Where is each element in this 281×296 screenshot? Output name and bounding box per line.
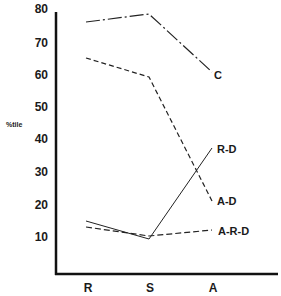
label-a-d: A-D xyxy=(217,195,237,207)
y-tick-80: 80 xyxy=(35,2,49,16)
y-tick-50: 50 xyxy=(35,100,49,114)
y-tick-30: 30 xyxy=(35,165,49,179)
series-a-d-line xyxy=(86,58,212,201)
x-tick-r: R xyxy=(84,281,93,295)
y-tick-20: 20 xyxy=(35,198,49,212)
y-tick-10: 10 xyxy=(35,230,49,244)
y-tick-60: 60 xyxy=(35,68,49,82)
series-r-d-line xyxy=(86,148,212,239)
line-chart: 80 70 60 50 40 30 20 10 %tile R S A C R-… xyxy=(0,0,281,296)
y-tick-70: 70 xyxy=(35,36,49,50)
y-axis-label: %tile xyxy=(6,121,22,128)
y-tick-40: 40 xyxy=(35,132,49,146)
label-r-d: R-D xyxy=(217,143,237,155)
x-tick-a: A xyxy=(209,281,218,295)
series-a-r-d-line xyxy=(86,227,212,236)
label-a-r-d: A-R-D xyxy=(218,225,249,237)
label-c: C xyxy=(214,69,222,81)
x-tick-s: S xyxy=(146,281,154,295)
